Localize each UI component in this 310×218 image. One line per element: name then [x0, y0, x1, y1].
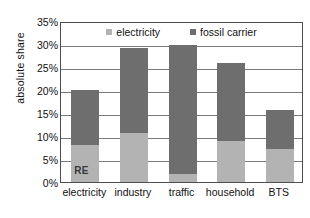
bar-group[interactable]: RE	[71, 90, 99, 182]
bar-segment-electricity[interactable]	[120, 133, 148, 182]
bar-annotation-re: RE	[74, 165, 89, 176]
y-axis-tick-label: 20%	[24, 86, 58, 96]
legend-item-label: fossil carrier	[200, 26, 257, 38]
x-axis-tick-label: household	[206, 186, 254, 198]
x-axis-tick-label: electricity	[62, 186, 106, 198]
y-axis-tick-label: 25%	[24, 63, 58, 73]
x-axis-tick-label: industry	[115, 186, 152, 198]
bar-segment-fossil-carrier[interactable]	[120, 48, 148, 134]
x-axis-tick-labels: electricityindustrytraffichouseholdBTS	[60, 186, 303, 206]
bar-segment-electricity[interactable]	[217, 141, 245, 182]
y-axis-tick-label: 0%	[24, 178, 58, 188]
bar-segment-electricity[interactable]	[169, 174, 197, 182]
x-axis-tick-label: traffic	[169, 186, 194, 198]
chart-container: absolute share 0%5%10%15%20%25%30%35% RE…	[0, 0, 310, 218]
legend-item[interactable]: fossil carrier	[190, 26, 257, 38]
x-axis-tick-label: BTS	[268, 186, 288, 198]
square-swatch-icon	[190, 29, 196, 35]
bar-segment-fossil-carrier[interactable]	[217, 63, 245, 141]
bar-segment-fossil-carrier[interactable]	[266, 110, 294, 149]
bar-series-group: RE	[61, 23, 302, 182]
plot-area: RE	[60, 22, 303, 183]
y-axis-tick-label: 5%	[24, 155, 58, 165]
y-axis-tick-label: 10%	[24, 132, 58, 142]
bar-segment-fossil-carrier[interactable]	[169, 45, 197, 173]
legend-item-label: electricity	[116, 26, 160, 38]
bar-group[interactable]	[120, 48, 148, 182]
y-axis-tick-label: 35%	[24, 17, 58, 27]
bar-group[interactable]	[217, 63, 245, 182]
bar-group[interactable]	[266, 110, 294, 182]
y-axis-tick-labels: 0%5%10%15%20%25%30%35%	[24, 0, 58, 218]
bar-segment-electricity[interactable]	[266, 149, 294, 182]
bar-group[interactable]	[169, 45, 197, 182]
bar-segment-electricity[interactable]: RE	[71, 145, 99, 182]
y-axis-tick-label: 15%	[24, 109, 58, 119]
legend-item[interactable]: electricity	[106, 26, 160, 38]
y-axis-tick-label: 30%	[24, 40, 58, 50]
chart-legend: electricityfossil carrier	[60, 24, 303, 40]
bar-segment-fossil-carrier[interactable]	[71, 90, 99, 145]
square-swatch-icon	[106, 29, 112, 35]
